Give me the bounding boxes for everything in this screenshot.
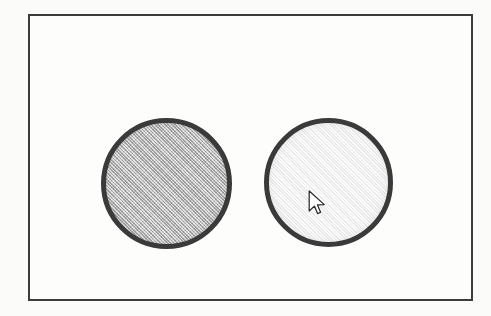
- bounding-frame: [28, 14, 473, 301]
- left-circle[interactable]: [101, 118, 232, 249]
- screenshot-canvas: [0, 0, 491, 316]
- right-circle[interactable]: [264, 118, 393, 247]
